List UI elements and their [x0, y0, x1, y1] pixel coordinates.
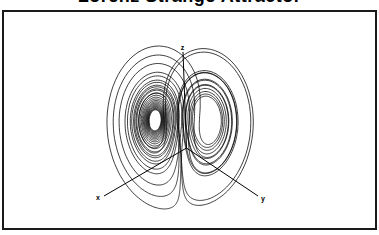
attractor-trajectory: [107, 46, 253, 209]
x-axis-label: x: [96, 194, 100, 201]
y-axis-label: y: [261, 195, 265, 203]
z-axis-label: z: [181, 44, 185, 51]
lorenz-plot: z x y: [0, 0, 379, 235]
screenshot-root: Lorenz Strange Attractor z x y: [0, 0, 379, 235]
